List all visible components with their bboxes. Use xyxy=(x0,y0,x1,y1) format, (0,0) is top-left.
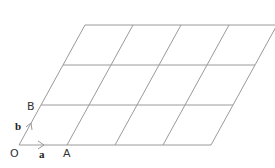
grid-column-line xyxy=(67,25,133,145)
grid-column-line xyxy=(19,25,85,145)
point-label-o: O xyxy=(10,147,19,160)
parallelogram-grid-diagram: O A B a b xyxy=(0,0,275,168)
vector-label-b: b xyxy=(15,120,21,132)
grid-column-line xyxy=(163,25,229,145)
grid-column-line xyxy=(115,25,181,145)
grid-lines xyxy=(19,25,275,145)
point-label-b: B xyxy=(27,100,35,113)
point-label-a: A xyxy=(63,147,71,160)
vector-label-a: a xyxy=(39,148,45,160)
grid-column-line xyxy=(211,25,275,145)
